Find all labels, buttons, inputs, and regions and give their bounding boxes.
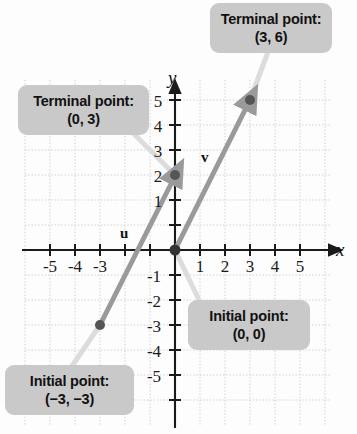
y-tick-label-5: 5: [148, 93, 168, 110]
y-tick-label-1: 1: [148, 193, 168, 210]
point-v-initial: [170, 245, 181, 256]
callout-terminal-point-3-6: Terminal point: (3, 6): [210, 3, 332, 53]
y-tick-label-2: 2: [148, 168, 168, 185]
callout-terminal-36-line2: (3, 6): [255, 28, 288, 46]
vector-diagram-figure: y x u v -5 -4 -3 1 2 3 4 5 5 4 3 2 1 -1 …: [0, 0, 357, 434]
callout-initial-33-line2: (−3, −3): [45, 390, 94, 408]
callout-initial-00-line2: (0, 0): [233, 325, 266, 343]
x-tick-label--5: -5: [38, 258, 62, 275]
y-tick-label--5: -5: [140, 368, 168, 385]
x-tick-label-4: 4: [263, 258, 287, 275]
y-tick-label-4: 4: [148, 118, 168, 135]
y-axis-label: y: [168, 68, 176, 87]
point-u-terminal: [170, 170, 180, 180]
y-tick-label--3: -3: [140, 318, 168, 335]
x-tick-label-5: 5: [288, 258, 312, 275]
callout-terminal-point-0-3: Terminal point: (0, 3): [18, 85, 149, 135]
callout-initial-point-0-0: Initial point: (0, 0): [188, 300, 310, 350]
x-tick-label-1: 1: [188, 258, 212, 275]
callout-terminal-36-line1: Terminal point:: [221, 10, 322, 28]
x-tick-label--4: -4: [63, 258, 87, 275]
callout-initial-00-line1: Initial point:: [209, 307, 288, 325]
point-u-initial: [95, 320, 105, 330]
point-v-terminal: [245, 95, 255, 105]
x-tick-label--3: -3: [88, 258, 112, 275]
vector-v-label: v: [201, 150, 209, 165]
y-tick-label-3: 3: [148, 143, 168, 160]
callout-initial-point-neg3-neg3: Initial point: (−3, −3): [5, 365, 134, 415]
vector-v-arrow: [175, 106, 247, 250]
leader-initial-33: [72, 325, 100, 366]
vector-u-label: u: [120, 226, 128, 241]
callout-initial-33-line1: Initial point:: [30, 372, 109, 390]
x-tick-label-3: 3: [238, 258, 262, 275]
y-tick-label--4: -4: [140, 343, 168, 360]
x-axis-label: x: [336, 240, 344, 259]
y-tick-label--1: -1: [140, 268, 168, 285]
callout-terminal-03-line1: Terminal point:: [33, 92, 134, 110]
leader-terminal-36: [250, 52, 268, 100]
y-tick-label--2: -2: [140, 293, 168, 310]
callout-terminal-03-line2: (0, 3): [67, 110, 100, 128]
x-tick-label-2: 2: [213, 258, 237, 275]
